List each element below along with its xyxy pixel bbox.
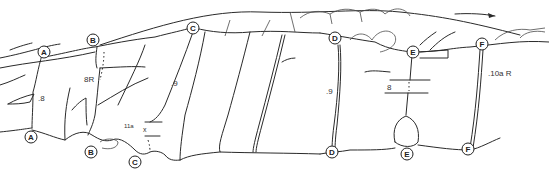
marker-c-bottom: C — [129, 156, 141, 168]
route-b — [65, 45, 148, 140]
svg-text:D: D — [329, 148, 335, 157]
marker-e-bottom: E — [401, 148, 413, 160]
route-c — [145, 32, 205, 160]
marker-d-bottom: D — [326, 146, 338, 158]
grade-b: 8R — [84, 75, 94, 84]
svg-text:C: C — [132, 158, 138, 167]
svg-text:F: F — [466, 145, 471, 154]
grade-e: 8 — [387, 83, 392, 92]
svg-text:E: E — [410, 48, 416, 57]
route-d — [332, 45, 341, 152]
grade-c-mark: x — [143, 126, 147, 133]
svg-text:B: B — [90, 36, 96, 45]
ridge-lines — [0, 11, 549, 132]
marker-b-bottom: B — [85, 146, 97, 158]
marker-f-bottom: F — [462, 143, 474, 155]
svg-text:D: D — [332, 34, 338, 43]
svg-text:B: B — [88, 148, 94, 157]
marker-b-top: B — [87, 34, 99, 46]
middle-faces — [219, 32, 320, 154]
grade-a: .8 — [38, 94, 45, 103]
grade-f: .10a R — [488, 69, 512, 78]
base-line — [32, 130, 500, 160]
svg-text:F: F — [480, 40, 485, 49]
climbing-topo-diagram: A A B B C C D D E E F F .8 8R .9 11a x .… — [0, 0, 549, 177]
top-boulders — [225, 9, 545, 52]
direction-arrow — [455, 13, 495, 18]
marker-d-top: D — [329, 32, 341, 44]
svg-text:A: A — [28, 133, 34, 142]
svg-text:E: E — [404, 150, 410, 159]
grade-d: .9 — [326, 87, 333, 96]
marker-a-bottom: A — [25, 131, 37, 143]
grade-c: .9 — [171, 79, 178, 88]
route-f — [470, 50, 483, 148]
grade-c-variation: 11a — [124, 123, 134, 129]
svg-text:A: A — [41, 48, 47, 57]
marker-c-top: C — [187, 22, 199, 34]
svg-text:C: C — [190, 24, 196, 33]
marker-f-top: F — [476, 38, 488, 50]
marker-a-top: A — [38, 46, 50, 58]
marker-e-top: E — [407, 46, 419, 58]
